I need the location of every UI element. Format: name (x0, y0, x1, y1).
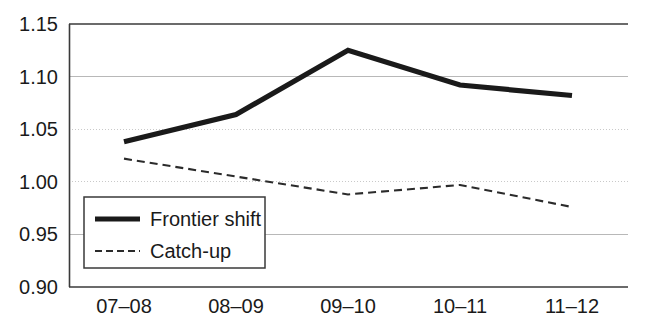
y-tick-label: 1.00 (19, 171, 58, 193)
x-tick-label: 10–11 (433, 295, 487, 317)
x-tick-label: 11–12 (545, 295, 599, 317)
x-tick-label: 07–08 (96, 295, 152, 317)
legend: Frontier shift Catch-up (84, 197, 265, 268)
y-tick-label: 1.05 (19, 118, 58, 140)
line-chart: 1.15 1.10 1.05 1.00 0.95 0.90 07–08 08–0… (0, 0, 646, 333)
y-tick-label: 0.90 (19, 276, 58, 298)
data-series (124, 50, 572, 207)
y-axis-tick-labels: 1.15 1.10 1.05 1.00 0.95 0.90 (19, 13, 58, 298)
x-tick-label: 09–10 (320, 295, 376, 317)
y-tick-label: 0.95 (19, 223, 58, 245)
series-line-frontier-shift (124, 50, 572, 142)
y-tick-label: 1.15 (19, 13, 58, 35)
x-tick-label: 08–09 (208, 295, 264, 317)
legend-label-frontier-shift: Frontier shift (150, 208, 262, 230)
legend-label-catch-up: Catch-up (150, 240, 231, 262)
y-tick-label: 1.10 (19, 66, 58, 88)
x-axis-tick-labels: 07–08 08–09 09–10 10–11 11–12 (96, 295, 599, 317)
chart-canvas: 1.15 1.10 1.05 1.00 0.95 0.90 07–08 08–0… (0, 0, 646, 333)
